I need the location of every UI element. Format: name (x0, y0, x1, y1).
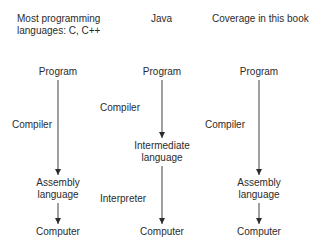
arrowhead-icon (55, 218, 61, 224)
arrowhead-icon (159, 132, 165, 138)
arrowhead-icon (159, 218, 165, 224)
arrows-layer (0, 0, 313, 247)
arrowhead-icon (256, 218, 262, 224)
arrowhead-icon (55, 169, 61, 175)
arrowhead-icon (256, 169, 262, 175)
